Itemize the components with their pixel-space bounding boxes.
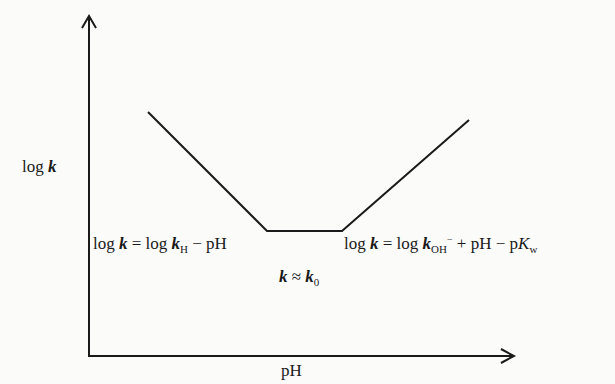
eq-sign: ≈ bbox=[288, 267, 306, 286]
y-axis-label-var: k bbox=[48, 157, 57, 176]
eq-subscript: 0 bbox=[314, 276, 320, 288]
eq-superscript: − bbox=[447, 234, 453, 245]
eq-sign: = bbox=[378, 234, 396, 253]
eq-part: log bbox=[397, 234, 423, 253]
base-region-equation: log k = log kOH− + pH − pKw bbox=[344, 235, 537, 252]
y-axis-label-log: log bbox=[22, 157, 48, 176]
eq-subscript: H bbox=[180, 243, 188, 255]
x-axis-label-text: pH bbox=[281, 361, 302, 380]
eq-subscript: w bbox=[529, 243, 537, 255]
plateau-equation: k ≈ k0 bbox=[279, 268, 319, 285]
acid-region-equation: log k = log kH − pH bbox=[93, 235, 227, 252]
rate-profile-curve bbox=[148, 112, 469, 231]
eq-sign: = bbox=[127, 234, 145, 253]
eq-var: K bbox=[518, 234, 529, 253]
eq-subscript: OH bbox=[431, 243, 447, 255]
eq-part: − pH bbox=[188, 234, 227, 253]
eq-part: log bbox=[93, 234, 119, 253]
eq-var: k bbox=[305, 267, 314, 286]
eq-var: k bbox=[279, 267, 288, 286]
y-axis-label: log k bbox=[22, 158, 56, 175]
eq-part: + pH − p bbox=[453, 234, 518, 253]
x-axis-label: pH bbox=[281, 362, 302, 379]
eq-var: k bbox=[172, 234, 181, 253]
eq-var: k bbox=[423, 234, 432, 253]
eq-part: log bbox=[344, 234, 370, 253]
ph-rate-plot bbox=[0, 0, 615, 384]
eq-part: log bbox=[146, 234, 172, 253]
